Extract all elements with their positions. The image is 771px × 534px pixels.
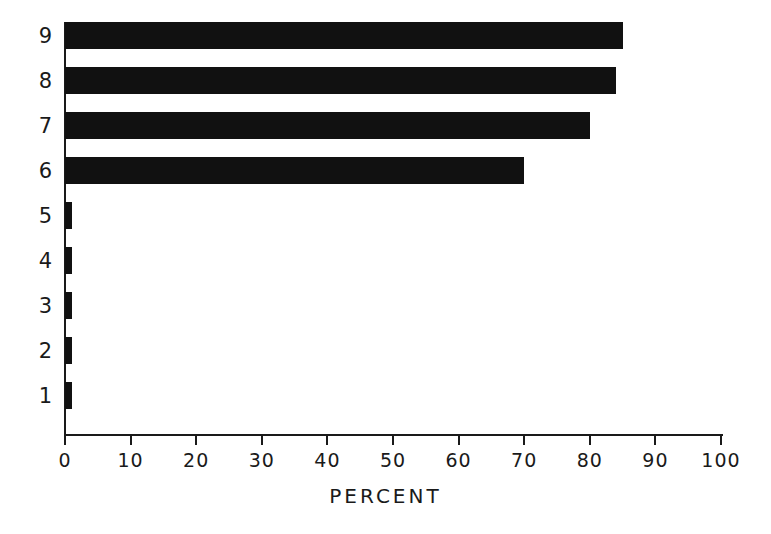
bar-chart-figure: 123456789 0102030405060708090100 PERCENT: [0, 0, 771, 534]
x-tick-label-40: 40: [314, 449, 340, 471]
x-tick-40: [326, 436, 328, 445]
y-tick-label-9: 9: [0, 24, 52, 48]
x-tick-label-70: 70: [511, 449, 537, 471]
x-tick-label-90: 90: [642, 449, 668, 471]
y-tick-label-5: 5: [0, 204, 52, 228]
y-tick-label-2: 2: [0, 339, 52, 363]
y-tick-label-4: 4: [0, 249, 52, 273]
bar-5: [65, 202, 72, 229]
bar-4: [65, 247, 72, 274]
x-tick-80: [589, 436, 591, 445]
x-tick-label-0: 0: [58, 449, 71, 471]
y-tick-label-1: 1: [0, 384, 52, 408]
bar-3: [65, 292, 72, 319]
y-tick-label-3: 3: [0, 294, 52, 318]
bar-7: [65, 112, 590, 139]
y-tick-label-8: 8: [0, 69, 52, 93]
x-tick-50: [392, 436, 394, 445]
bar-8: [65, 67, 616, 94]
x-tick-label-100: 100: [701, 449, 740, 471]
x-tick-label-10: 10: [118, 449, 144, 471]
x-tick-label-50: 50: [380, 449, 406, 471]
x-tick-0: [64, 436, 66, 445]
x-tick-label-80: 80: [577, 449, 603, 471]
x-tick-100: [720, 436, 722, 445]
x-tick-label-60: 60: [446, 449, 472, 471]
x-tick-label-30: 30: [249, 449, 275, 471]
x-tick-20: [195, 436, 197, 445]
bar-6: [65, 157, 524, 184]
x-tick-label-20: 20: [183, 449, 209, 471]
bar-2: [65, 337, 72, 364]
x-axis-title: PERCENT: [0, 484, 771, 508]
plot-area: 123456789 0102030405060708090100 PERCENT: [0, 0, 771, 534]
y-tick-label-7: 7: [0, 114, 52, 138]
x-tick-70: [523, 436, 525, 445]
x-tick-30: [261, 436, 263, 445]
x-tick-90: [654, 436, 656, 445]
bar-1: [65, 382, 72, 409]
bar-9: [65, 22, 623, 49]
y-tick-label-6: 6: [0, 159, 52, 183]
x-tick-60: [458, 436, 460, 445]
x-tick-10: [130, 436, 132, 445]
